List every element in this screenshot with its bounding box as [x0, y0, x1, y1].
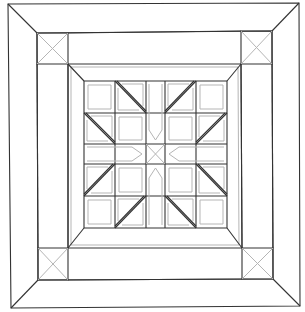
hst-diagonal: [198, 164, 227, 194]
inset-square: [169, 168, 192, 192]
miter-line: [273, 279, 300, 306]
right-strip-inner: [241, 64, 242, 248]
hst-diagonal: [196, 113, 227, 144]
hst-guide: [172, 199, 193, 221]
third-frame-guide: [71, 67, 239, 245]
third-frame: [68, 64, 242, 248]
hst-diagonal: [196, 164, 227, 196]
miter-line: [8, 4, 37, 33]
inset-square: [119, 117, 142, 140]
inset-square: [88, 200, 111, 224]
hst-guide: [122, 203, 143, 225]
inset-square: [119, 168, 142, 192]
hst-diagonal: [165, 196, 196, 228]
hst-guide: [87, 167, 108, 189]
hst-guide: [172, 88, 193, 110]
hst-guide: [168, 203, 189, 225]
hst-guide: [118, 199, 139, 221]
hst-diagonal: [165, 81, 196, 113]
inset-square: [200, 200, 223, 224]
hst-guide: [91, 116, 112, 137]
inset-square: [200, 85, 223, 109]
hst-diagonal: [86, 113, 115, 142]
hst-guide: [168, 84, 189, 106]
miter-line: [272, 3, 299, 31]
hst-guide: [199, 171, 220, 193]
center-block: [68, 64, 242, 248]
hst-diagonal: [196, 113, 225, 142]
hst-guide: [118, 88, 139, 110]
hst-diagonal: [115, 196, 144, 226]
hst-diagonal: [167, 196, 196, 226]
hst-guide: [87, 120, 108, 141]
hst-diagonal: [84, 164, 115, 196]
miter-line: [11, 280, 38, 308]
top-strip-chevron: [149, 84, 162, 140]
bottom-strip-edge: [68, 279, 242, 280]
right-strip-edge: [272, 64, 273, 248]
hst-guide: [203, 120, 224, 141]
quilt-diagram: [0, 0, 305, 312]
inset-square: [88, 85, 111, 109]
hst-diagonal: [115, 196, 146, 228]
hst-diagonal: [84, 164, 113, 194]
inset-square: [169, 117, 192, 140]
hst-diagonal: [117, 81, 146, 111]
hst-diagonal: [84, 113, 115, 144]
hst-diagonal: [115, 81, 146, 113]
hst-diagonal: [165, 81, 194, 111]
hst-guide: [203, 167, 224, 189]
hst-guide: [199, 116, 220, 137]
hst-guide: [91, 171, 112, 193]
left-strip-edge: [37, 64, 38, 248]
hst-guide: [122, 84, 143, 106]
